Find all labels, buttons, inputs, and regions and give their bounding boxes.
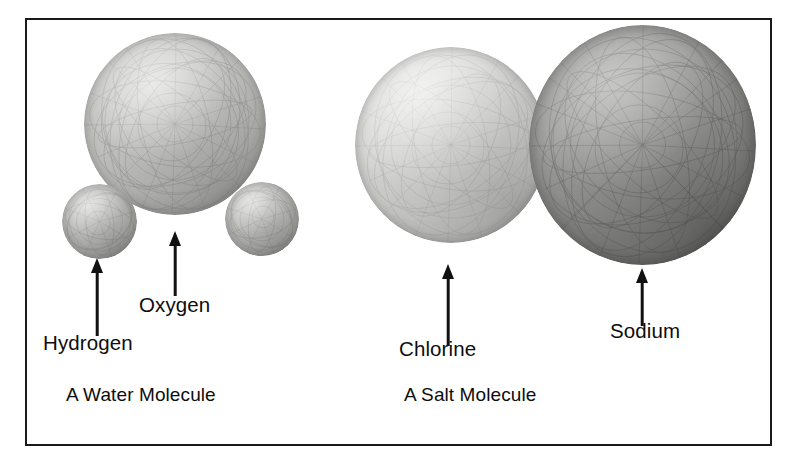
figure-border — [25, 18, 772, 446]
molecule-figure: Hydrogen Oxygen Chlorine Sodium A Water … — [0, 0, 796, 471]
